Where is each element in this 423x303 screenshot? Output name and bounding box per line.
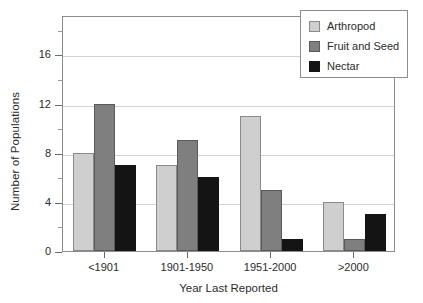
legend-label: Arthropod xyxy=(327,21,375,32)
bar-fruit-and-seed-3 xyxy=(344,239,365,251)
bar-arthropod-1 xyxy=(156,165,177,251)
legend-label: Fruit and Seed xyxy=(327,41,399,52)
x-axis-tick xyxy=(270,252,271,258)
y-axis-tick xyxy=(55,252,62,253)
bar-fruit-and-seed-1 xyxy=(177,140,198,251)
bar-chart-figure: Number of Populations 0481216 <19011901-… xyxy=(0,0,423,303)
y-axis-tick xyxy=(55,203,62,204)
bar-arthropod-2 xyxy=(240,116,261,251)
x-axis-tick xyxy=(353,252,354,258)
y-axis-tick xyxy=(55,55,62,56)
bar-fruit-and-seed-2 xyxy=(261,190,282,251)
x-axis-tick xyxy=(104,252,105,258)
y-axis-tick-label: 8 xyxy=(11,148,51,159)
bar-nectar-1 xyxy=(198,177,219,251)
legend-swatch-icon xyxy=(309,21,320,32)
y-axis-tick xyxy=(55,105,62,106)
legend: ArthropodFruit and SeedNectar xyxy=(300,10,408,78)
bar-fruit-and-seed-0 xyxy=(94,104,115,252)
bar-arthropod-3 xyxy=(323,202,344,251)
y-axis-tick-label: 0 xyxy=(11,246,51,257)
x-axis-title: Year Last Reported xyxy=(62,282,395,294)
bar-nectar-2 xyxy=(282,239,303,251)
bar-arthropod-0 xyxy=(73,153,94,251)
x-axis-tick xyxy=(187,252,188,258)
y-axis-tick-label: 16 xyxy=(11,49,51,60)
legend-item-fruit-and-seed: Fruit and Seed xyxy=(309,37,407,56)
legend-item-arthropod: Arthropod xyxy=(309,17,407,36)
bar-nectar-3 xyxy=(365,214,386,251)
legend-label: Nectar xyxy=(327,61,359,72)
legend-swatch-icon xyxy=(309,41,320,52)
y-axis-tick xyxy=(55,154,62,155)
legend-item-nectar: Nectar xyxy=(309,57,407,76)
legend-swatch-icon xyxy=(309,61,320,72)
bar-nectar-0 xyxy=(115,165,136,251)
y-axis-tick-label: 12 xyxy=(11,99,51,110)
y-axis-tick-label: 4 xyxy=(11,197,51,208)
x-axis-tick-label: >2000 xyxy=(298,261,408,273)
